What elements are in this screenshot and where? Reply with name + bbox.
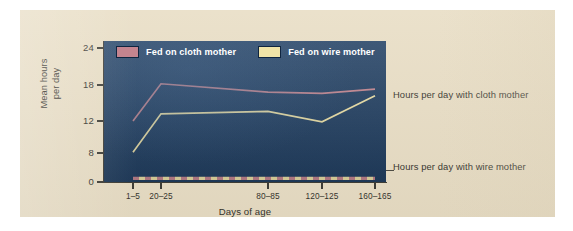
y-axis-title: Mean hoursper day	[39, 41, 62, 127]
x-tick-label: 20–25	[149, 191, 173, 201]
x-axis-title: Days of age	[104, 206, 386, 217]
legend-swatch-cloth	[116, 46, 139, 58]
legend-label-cloth: Fed on cloth mother	[146, 47, 236, 57]
x-tick-label: 120–125	[305, 191, 338, 201]
y-tick-mark	[97, 84, 104, 85]
plot-area: Fed on cloth mother Fed on wire mother	[104, 41, 386, 182]
legend-entry-wire: Fed on wire mother	[258, 46, 375, 58]
figure-panel: Fed on cloth mother Fed on wire mother 0…	[20, 10, 555, 217]
y-axis-title-line: Mean hours	[39, 41, 51, 127]
x-tick-mark	[160, 183, 161, 189]
annotation-wire-mother: Hours per day with wire mother	[393, 161, 526, 172]
y-tick-mark	[97, 120, 104, 121]
x-axis-line	[103, 182, 387, 183]
x-tick-mark	[321, 183, 322, 189]
y-axis-title-line: per day	[50, 41, 62, 127]
series-line	[133, 84, 375, 121]
x-tick-mark	[132, 183, 133, 189]
plot-svg	[104, 41, 386, 182]
x-tick-label: 1–5	[126, 191, 140, 201]
y-tick-label: 12	[72, 116, 94, 126]
legend-label-wire: Fed on wire mother	[288, 47, 375, 57]
y-tick-label: 18	[72, 80, 94, 90]
legend-entry-cloth: Fed on cloth mother	[116, 46, 236, 58]
y-tick-mark	[97, 181, 104, 182]
x-tick-mark	[374, 183, 375, 189]
legend-swatch-wire	[258, 46, 281, 58]
y-tick-mark	[97, 152, 104, 153]
series-line	[133, 96, 375, 152]
y-tick-label: 24	[72, 43, 94, 53]
figure-root: Fed on cloth mother Fed on wire mother 0…	[0, 0, 573, 231]
y-tick-label: 8	[72, 148, 94, 158]
annotation-cloth-mother: Hours per day with cloth mother	[393, 89, 528, 100]
series-group	[133, 84, 375, 179]
chart-legend: Fed on cloth mother Fed on wire mother	[116, 46, 375, 58]
x-tick-label: 160–165	[358, 191, 391, 201]
y-tick-label: 0	[72, 177, 94, 187]
y-axis-line	[103, 41, 104, 183]
x-tick-mark	[267, 183, 268, 189]
y-tick-mark	[97, 47, 104, 48]
x-tick-label: 80–85	[256, 191, 280, 201]
